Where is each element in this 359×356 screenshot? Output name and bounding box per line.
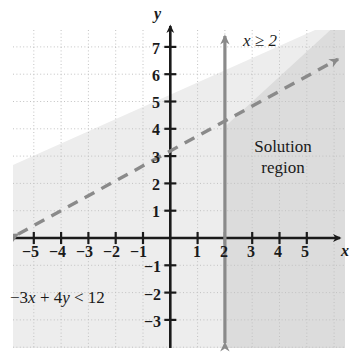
annotation-lead: −3 [10, 288, 28, 307]
annotation-var-x: x [28, 288, 36, 307]
annotation-plus: + 4 [36, 288, 63, 307]
annotation-tail: < 12 [70, 288, 105, 307]
x-tick-label: 4 [274, 244, 282, 260]
annotation-var-y: y [62, 288, 70, 307]
x-tick-label: −2 [103, 244, 120, 260]
x-tick-label: 1 [193, 244, 201, 260]
graph-figure: y x −5 −4 −3 −2 −1 1 2 3 4 5 1 2 3 4 5 6… [0, 0, 359, 356]
x-tick-label: −3 [76, 244, 93, 260]
solution-region-line1: Solution [233, 136, 333, 157]
y-tick-label: −3 [144, 314, 161, 330]
y-tick-label: 3 [152, 150, 160, 166]
y-tick-label: 2 [152, 177, 160, 193]
y-tick-label: 7 [152, 41, 160, 57]
y-axis-label: y [154, 6, 161, 22]
x-tick-label: −5 [22, 244, 39, 260]
y-tick-label: −2 [144, 287, 161, 303]
y-tick-label: 5 [152, 95, 160, 111]
y-tick-label: 4 [152, 122, 160, 138]
solution-region-label: Solution region [233, 136, 333, 179]
solution-region-line2: region [233, 157, 333, 178]
x-tick-label: 2 [220, 244, 228, 260]
dashed-line-annotation: −3x + 4y < 12 [10, 289, 105, 306]
x-tick-label: 3 [247, 244, 255, 260]
x-tick-label: 5 [301, 244, 309, 260]
x-tick-label: −4 [49, 244, 66, 260]
y-tick-label: 1 [152, 204, 160, 220]
x-axis-label: x [341, 243, 349, 259]
vertical-line-annotation: x ≥ 2 [243, 32, 277, 49]
y-tick-label: 6 [152, 68, 160, 84]
y-tick-label: −1 [144, 259, 161, 275]
